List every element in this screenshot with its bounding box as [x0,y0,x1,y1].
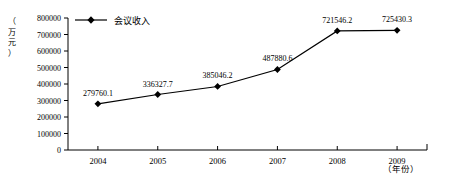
y-tick-label: 500000 [37,64,61,73]
chart-container: 0100000200000300000400000500000600000700… [0,0,455,183]
x-tick-label: 2008 [329,156,346,166]
y-tick-label: 100000 [37,130,61,139]
y-tick-label: 400000 [37,80,61,89]
data-point-label: 279760.1 [83,89,113,98]
x-tick-label: 2004 [89,156,107,166]
line-chart: 0100000200000300000400000500000600000700… [0,0,455,183]
y-tick-label: 700000 [37,31,61,40]
y-axis-title-char: 万 [8,28,16,37]
data-point-label: 721546.2 [322,16,352,25]
y-tick-label: 300000 [37,97,61,106]
x-tick-label: 2005 [149,156,166,166]
y-tick-label: 800000 [37,14,61,23]
x-tick-label: 2007 [269,156,286,166]
y-axis-title: （万元） [8,17,16,58]
data-point-label: 725430.3 [382,15,412,24]
data-point-label: 336327.7 [143,80,173,89]
x-tick-label: 2006 [209,156,226,166]
data-point-label: 487880.6 [262,54,292,63]
y-axis-title-char: ） [8,49,16,58]
y-axis-tick-labels: 0100000200000300000400000500000600000700… [37,14,61,155]
y-axis-title-char: （ [8,17,16,26]
data-point-label: 385046.2 [203,71,233,80]
legend-label: 会议收入 [114,15,150,26]
y-tick-label: 200000 [37,113,61,122]
y-tick-label: 0 [57,146,61,155]
x-axis-title: （年份） [383,164,419,174]
y-axis-title-char: 元 [8,38,16,47]
y-tick-label: 600000 [37,47,61,56]
